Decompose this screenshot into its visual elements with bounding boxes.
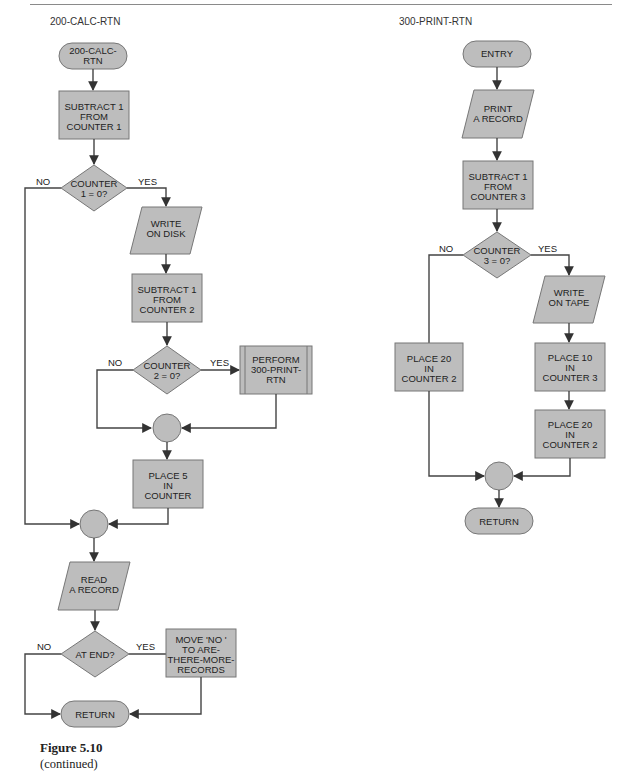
figure-caption: Figure 5.10 (continued)	[40, 740, 103, 772]
svg-text:A RECORD: A RECORD	[69, 584, 119, 595]
dec1-yes-label: YES	[138, 176, 157, 187]
svg-text:COUNTER 2: COUNTER 2	[402, 373, 457, 384]
svg-text:RTN: RTN	[266, 374, 285, 385]
left-decision-counter1: COUNTER 1 = 0?	[61, 165, 127, 211]
left-subtract-counter2-box: SUBTRACT 1 FROM COUNTER 2	[132, 274, 202, 322]
right-chart-title: 300-PRINT-RTN	[399, 16, 472, 27]
svg-text:COUNTER 3: COUNTER 3	[543, 372, 598, 383]
left-decision-counter2: COUNTER 2 = 0?	[133, 346, 201, 394]
svg-text:3 = 0?: 3 = 0?	[484, 255, 511, 266]
svg-text:RETURN: RETURN	[479, 516, 519, 527]
left-chart-title: 200-CALC-RTN	[50, 16, 120, 27]
right-connector	[485, 462, 513, 490]
svg-text:1 = 0?: 1 = 0?	[81, 188, 108, 199]
svg-text:AT END?: AT END?	[75, 649, 114, 660]
left-entry-terminal: 200-CALC- RTN	[59, 43, 127, 69]
figure-number: Figure 5.10	[40, 740, 103, 756]
dec3-yes-label: YES	[136, 641, 155, 652]
svg-text:COUNTER 2: COUNTER 2	[543, 439, 598, 450]
svg-text:COUNTER: COUNTER	[145, 490, 192, 501]
right-dec-no-label: NO	[439, 243, 453, 254]
left-write-disk-io: WRITE ON DISK	[130, 207, 202, 254]
left-subtract-counter1-box: SUBTRACT 1 FROM COUNTER 1	[59, 91, 129, 139]
left-decision-at-end: AT END?	[61, 631, 129, 677]
dec1-no-label: NO	[36, 176, 50, 187]
right-entry-terminal: ENTRY	[463, 41, 531, 67]
flowchart-canvas: 200-CALC-RTN 200-CALC- RTN SUBTRACT 1 FR…	[0, 0, 617, 784]
left-read-record-io: READ A RECORD	[58, 562, 130, 610]
svg-text:COUNTER 1: COUNTER 1	[67, 121, 122, 132]
right-place10-counter3-box: PLACE 10 IN COUNTER 3	[535, 343, 605, 391]
dec2-no-label: NO	[108, 357, 122, 368]
svg-text:A RECORD: A RECORD	[473, 113, 523, 124]
right-dec-yes-label: YES	[538, 243, 557, 254]
svg-text:COUNTER 2: COUNTER 2	[140, 304, 195, 315]
dec2-yes-label: YES	[210, 357, 229, 368]
left-move-no-box: MOVE 'NO ' TO ARE- THERE-MORE- RECORDS	[166, 629, 236, 677]
figure-subcaption: (continued)	[40, 757, 103, 772]
right-return-terminal: RETURN	[465, 508, 533, 534]
right-write-tape-io: WRITE ON TAPE	[533, 276, 605, 323]
left-connector-2	[80, 510, 108, 538]
left-return-terminal: RETURN	[61, 701, 129, 727]
svg-text:ENTRY: ENTRY	[481, 48, 514, 59]
right-place20-counter2-left-box: PLACE 20 IN COUNTER 2	[395, 343, 463, 391]
right-decision-counter3: COUNTER 3 = 0?	[463, 232, 531, 278]
svg-text:ON DISK: ON DISK	[146, 228, 186, 239]
right-print-record-io: PRINT A RECORD	[462, 90, 534, 138]
svg-text:COUNTER 3: COUNTER 3	[471, 191, 526, 202]
left-perform-300-print-rtn: PERFORM 300-PRINT- RTN	[240, 346, 312, 394]
dec3-no-label: NO	[37, 641, 51, 652]
svg-text:RTN: RTN	[83, 55, 102, 66]
svg-text:RETURN: RETURN	[75, 709, 115, 720]
svg-text:RECORDS: RECORDS	[177, 664, 225, 675]
svg-text:2 = 0?: 2 = 0?	[154, 370, 181, 381]
svg-text:ON TAPE: ON TAPE	[549, 297, 590, 308]
left-connector-1	[153, 414, 181, 442]
right-subtract-counter3-box: SUBTRACT 1 FROM COUNTER 3	[463, 161, 533, 209]
left-place5-box: PLACE 5 IN COUNTER	[133, 460, 203, 508]
right-place20-counter2-right-box: PLACE 20 IN COUNTER 2	[535, 410, 605, 458]
